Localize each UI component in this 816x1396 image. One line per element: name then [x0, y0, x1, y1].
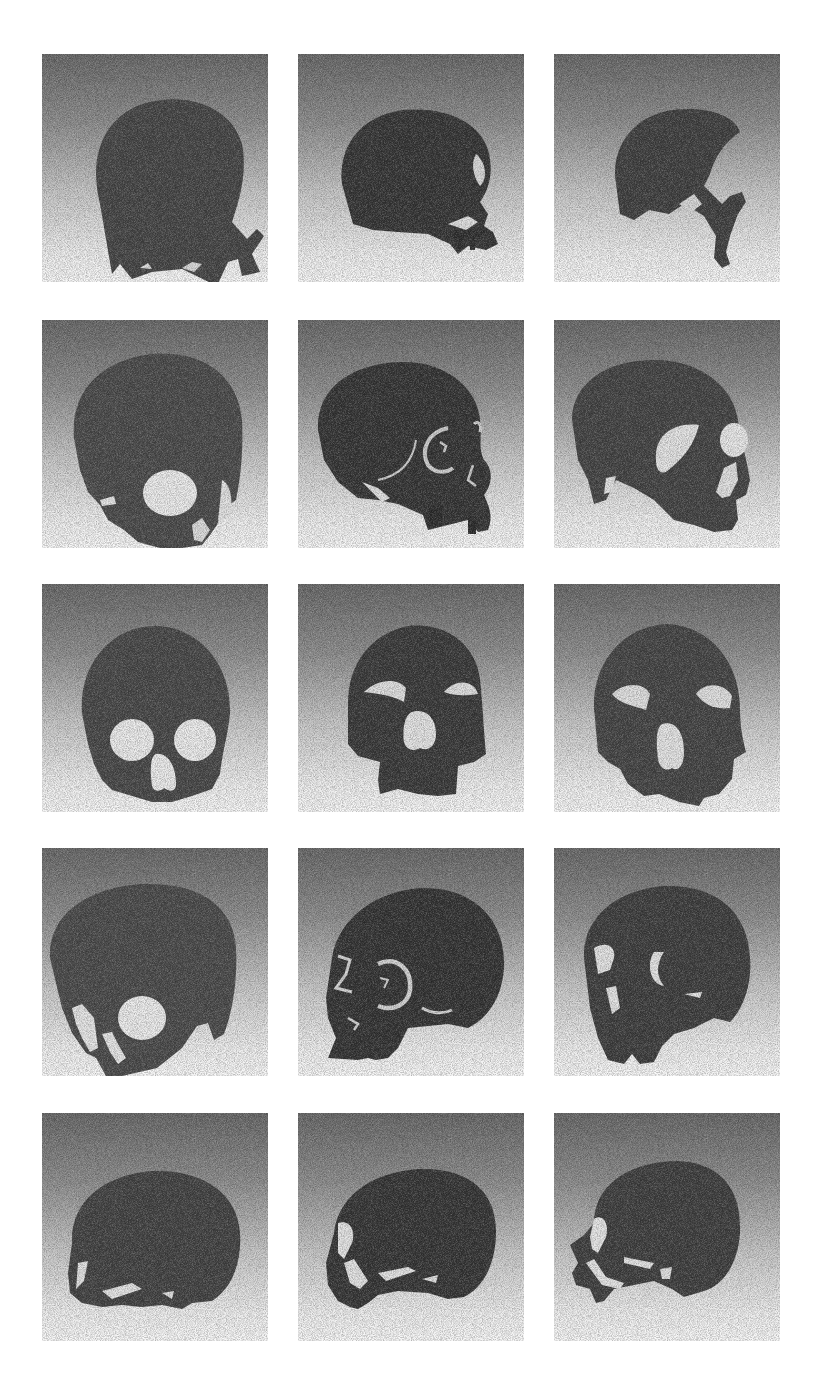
skull-panel-r4c3 — [554, 848, 780, 1076]
skull-render-icon — [298, 584, 524, 812]
skull-render-icon — [298, 848, 524, 1076]
skull-render-icon — [42, 584, 268, 812]
skull-panel-r2c2 — [298, 320, 524, 548]
skull-panel-r1c3 — [554, 54, 780, 282]
skull-panel-r1c2 — [298, 54, 524, 282]
skull-render-icon — [554, 584, 780, 812]
skull-panel-r2c3 — [554, 320, 780, 548]
figure-caption — [46, 1391, 776, 1396]
skull-render-icon — [298, 54, 524, 282]
skull-render-icon — [554, 320, 780, 548]
skull-render-icon — [554, 848, 780, 1076]
skull-panel-r3c3 — [554, 584, 780, 812]
skull-render-icon — [298, 320, 524, 548]
skull-panel-r1c1 — [42, 54, 268, 282]
skull-panel-r3c1 — [42, 584, 268, 812]
skull-render-icon — [42, 54, 268, 282]
skull-render-icon — [554, 54, 780, 282]
skull-figure-grid — [0, 0, 816, 1396]
skull-panel-r5c3 — [554, 1113, 780, 1341]
skull-panel-r4c2 — [298, 848, 524, 1076]
skull-panel-r3c2 — [298, 584, 524, 812]
skull-panel-r2c1 — [42, 320, 268, 548]
skull-render-icon — [42, 320, 268, 548]
skull-render-icon — [42, 848, 268, 1076]
skull-render-icon — [298, 1113, 524, 1341]
skull-render-icon — [42, 1113, 268, 1341]
skull-panel-r4c1 — [42, 848, 268, 1076]
skull-panel-r5c1 — [42, 1113, 268, 1341]
skull-render-icon — [554, 1113, 780, 1341]
skull-panel-r5c2 — [298, 1113, 524, 1341]
